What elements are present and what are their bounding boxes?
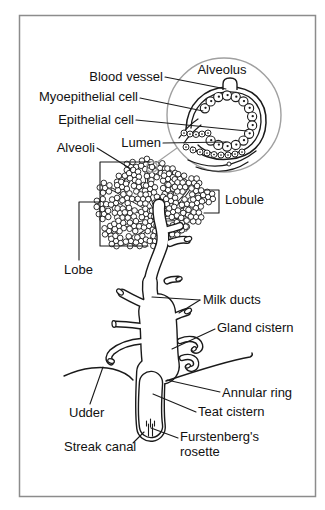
cell-nucleus xyxy=(220,154,222,156)
cell-nucleus xyxy=(185,146,187,148)
cell-nucleus xyxy=(226,145,228,147)
alveolus-circle xyxy=(116,173,122,179)
cell-nucleus xyxy=(235,95,237,97)
alveolus-circle xyxy=(160,178,166,184)
label-teat-cistern: Teat cistern xyxy=(198,404,264,419)
cell-nucleus xyxy=(195,134,197,136)
alveolus-circle xyxy=(100,190,106,196)
cell-nucleus xyxy=(213,154,215,156)
cell-nucleus xyxy=(204,107,206,109)
alveolus-circle xyxy=(181,173,187,179)
alveolus-circle xyxy=(136,179,142,185)
label-furstenbergs-rosette-line1: Furstenberg's xyxy=(180,429,260,444)
alveolus-circle xyxy=(100,196,106,202)
cell-nucleus xyxy=(183,132,185,134)
alveolus-circle xyxy=(132,228,138,234)
alveolus-circle xyxy=(172,184,178,190)
alveolus-circle xyxy=(121,191,127,197)
alveolus-circle xyxy=(139,214,145,220)
alveolus-circle xyxy=(133,218,139,224)
cell-nucleus xyxy=(210,139,212,141)
cell-nucleus xyxy=(210,100,212,102)
label-alveoli: Alveoli xyxy=(57,140,95,155)
alveolus-circle xyxy=(127,176,133,182)
callout-alveolus xyxy=(149,164,155,170)
cell-nucleus xyxy=(189,133,191,135)
alveolus-circle xyxy=(115,187,121,193)
alveolus-circle xyxy=(94,204,100,210)
label-milk-ducts: Milk ducts xyxy=(203,292,261,307)
cell-nucleus xyxy=(206,152,208,154)
alveolus-circle xyxy=(189,186,195,192)
alveolus-circle xyxy=(129,196,135,202)
alveolus-circle xyxy=(116,218,122,224)
cell-nucleus xyxy=(241,151,243,153)
alveolus-circle xyxy=(144,173,150,179)
alveolus-circle xyxy=(127,191,133,197)
alveolus-circle xyxy=(159,161,165,167)
alveolus-circle xyxy=(132,208,138,214)
cell-nucleus xyxy=(249,132,251,134)
alveolus-circle xyxy=(154,174,160,180)
alveolus-circle xyxy=(96,211,102,217)
label-myoepithelial-cell: Myoepithelial cell xyxy=(39,89,138,104)
alveolus-circle xyxy=(135,169,141,175)
alveolus-circle xyxy=(184,218,190,224)
cell-nucleus xyxy=(226,94,228,96)
alveolus-circle xyxy=(147,238,153,244)
alveolus-circle xyxy=(169,214,175,220)
alveolus-circle xyxy=(175,171,181,177)
alveolus-circle xyxy=(179,202,185,208)
label-blood-vessel: Blood vessel xyxy=(89,69,163,84)
mammary-gland-diagram: Alveolus Blood vessel Myoepithelial cell… xyxy=(0,0,325,510)
cell-nucleus xyxy=(235,143,237,145)
alveolus-duct-knob xyxy=(223,78,237,90)
cell-nucleus xyxy=(199,151,201,153)
diagram-border xyxy=(20,16,316,497)
alveolus-circle xyxy=(102,225,108,231)
cell-nucleus xyxy=(218,143,220,145)
label-epithelial-cell: Epithelial cell xyxy=(58,112,134,127)
cell-nucleus xyxy=(218,95,220,97)
alveolus-circle xyxy=(138,163,144,169)
alveolus-circle xyxy=(194,176,200,182)
cell-nucleus xyxy=(201,133,203,135)
alveolus-circle xyxy=(186,207,192,213)
duct-opening xyxy=(112,320,117,327)
label-alveolus: Alveolus xyxy=(197,62,247,77)
label-streak-canal: Streak canal xyxy=(64,439,136,454)
alveolus-circle xyxy=(123,239,129,245)
alveolus-circle xyxy=(166,182,172,188)
alveolus-circle xyxy=(107,183,113,189)
alveolus-circle xyxy=(194,183,200,189)
label-annular-ring: Annular ring xyxy=(222,385,292,400)
label-gland-cistern: Gland cistern xyxy=(217,320,294,335)
alveolus-circle xyxy=(106,189,112,195)
alveolus-circle xyxy=(120,197,126,203)
alveolus-circle xyxy=(105,214,111,220)
cell-nucleus xyxy=(207,132,209,134)
alveolus-circle xyxy=(94,198,100,204)
alveolus-circle xyxy=(161,173,167,179)
label-furstenbergs-rosette-line2: rosette xyxy=(180,444,220,459)
alveolus-circle xyxy=(126,234,132,240)
cell-nucleus xyxy=(234,153,236,155)
cell-nucleus xyxy=(249,107,251,109)
label-udder: Udder xyxy=(69,405,105,420)
cell-nucleus xyxy=(192,149,194,151)
alveolus-circle xyxy=(122,210,128,216)
cell-nucleus xyxy=(243,100,245,102)
alveolus-circle xyxy=(172,195,178,201)
alveolus-circle xyxy=(182,197,188,203)
cell-nucleus xyxy=(252,115,254,117)
alveolus-circle xyxy=(178,215,184,221)
alveolus-circle xyxy=(127,226,133,232)
label-lobule: Lobule xyxy=(225,192,264,207)
stray-cell xyxy=(227,162,231,166)
alveolus-circle xyxy=(117,235,123,241)
alveolus-circle xyxy=(105,208,111,214)
label-lumen: Lumen xyxy=(121,135,161,150)
alveolus-circle xyxy=(123,181,129,187)
alveolus-circle xyxy=(126,205,132,211)
label-lobe: Lobe xyxy=(64,262,93,277)
